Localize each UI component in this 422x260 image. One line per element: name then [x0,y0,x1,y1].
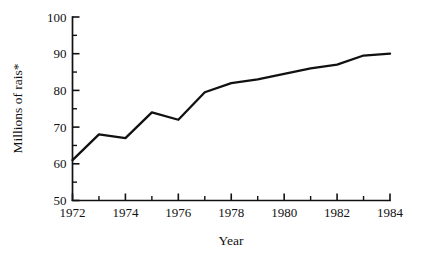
x-tick-label: 1980 [271,205,297,220]
chart-figure: 5060708090100 Millions of rais* 19721974… [0,0,422,260]
y-axis-title: Millions of rais* [10,63,25,153]
y-tick-label: 80 [54,83,67,98]
y-tick-label: 60 [54,156,67,171]
x-axis-title: Year [219,233,244,248]
y-tick-label: 90 [54,46,67,61]
x-tick-label: 1982 [324,205,350,220]
y-tick-label: 100 [47,10,67,25]
line-chart: 5060708090100 Millions of rais* 19721974… [0,0,422,260]
x-tick-label: 1972 [60,205,86,220]
x-tick-label: 1978 [218,205,244,220]
x-tick-label: 1984 [377,205,404,220]
x-tick-label: 1974 [112,205,139,220]
x-tick-label: 1976 [165,205,192,220]
y-tick-label: 70 [54,120,67,135]
